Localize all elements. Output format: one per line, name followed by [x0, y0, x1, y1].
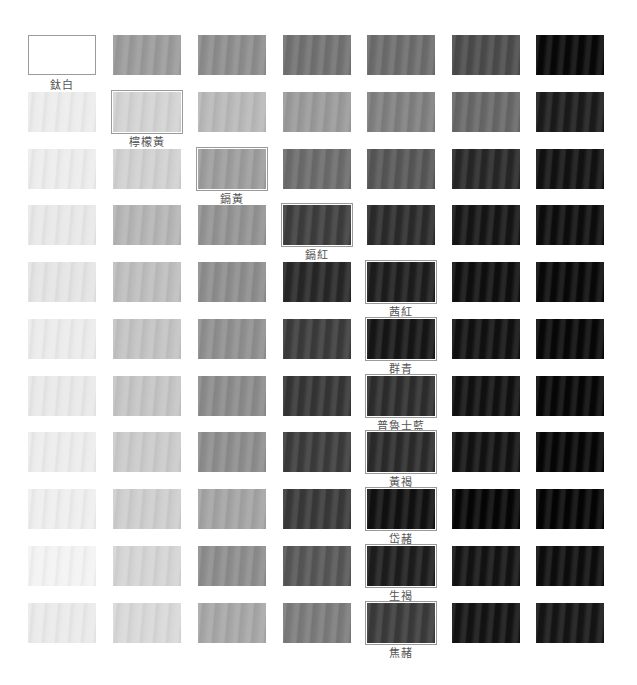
selected-color-swatch — [283, 205, 351, 245]
color-swatch — [283, 376, 351, 416]
selected-color-swatch — [367, 319, 435, 359]
color-swatch — [28, 149, 96, 189]
color-swatch — [113, 262, 181, 302]
color-swatch — [536, 35, 604, 75]
color-swatch — [113, 489, 181, 529]
color-swatch — [452, 376, 520, 416]
color-swatch — [283, 432, 351, 472]
selected-color-swatch — [367, 376, 435, 416]
color-swatch — [536, 489, 604, 529]
swatch-label: 岱赭 — [359, 533, 443, 546]
color-swatch — [283, 603, 351, 643]
color-swatch — [536, 376, 604, 416]
color-swatch — [452, 489, 520, 529]
color-swatch — [283, 92, 351, 132]
color-swatch — [198, 432, 266, 472]
color-swatch — [452, 603, 520, 643]
color-swatch — [198, 262, 266, 302]
color-swatch — [113, 149, 181, 189]
color-swatch — [28, 376, 96, 416]
color-swatch — [113, 432, 181, 472]
color-swatch — [28, 489, 96, 529]
color-swatch — [452, 546, 520, 586]
color-swatch — [198, 376, 266, 416]
color-swatch — [283, 35, 351, 75]
color-swatch — [536, 92, 604, 132]
color-swatch — [367, 35, 435, 75]
selected-color-swatch — [367, 262, 435, 302]
selected-color-swatch — [113, 92, 181, 132]
color-swatch — [28, 205, 96, 245]
color-swatch — [452, 205, 520, 245]
color-swatch — [198, 205, 266, 245]
color-swatch — [452, 432, 520, 472]
color-swatch — [536, 205, 604, 245]
color-swatch — [198, 92, 266, 132]
color-swatch — [198, 546, 266, 586]
swatch-label: 鎘紅 — [275, 249, 359, 262]
color-swatch — [536, 319, 604, 359]
swatch-label: 茜紅 — [359, 306, 443, 319]
color-swatch — [28, 92, 96, 132]
color-swatch — [283, 319, 351, 359]
color-swatch — [536, 432, 604, 472]
color-swatch — [198, 319, 266, 359]
color-swatch — [28, 432, 96, 472]
color-swatch — [113, 603, 181, 643]
grayscale-swatch-grid: 鈦白檸檬黃鎘黃鎘紅茜紅群青普魯士藍黃褐岱赭生褐焦赭 — [0, 0, 637, 685]
color-swatch — [198, 35, 266, 75]
color-swatch — [283, 546, 351, 586]
color-swatch — [113, 205, 181, 245]
color-swatch — [198, 603, 266, 643]
color-swatch — [536, 546, 604, 586]
color-swatch — [113, 319, 181, 359]
color-swatch — [113, 35, 181, 75]
selected-color-swatch — [367, 546, 435, 586]
color-swatch — [283, 262, 351, 302]
swatch-label: 鈦白 — [20, 79, 104, 92]
selected-color-swatch — [367, 432, 435, 472]
swatch-label: 黃褐 — [359, 476, 443, 489]
color-swatch — [198, 489, 266, 529]
selected-color-swatch — [367, 489, 435, 529]
swatch-label: 群青 — [359, 363, 443, 376]
swatch-label: 檸檬黃 — [105, 136, 189, 149]
color-swatch — [113, 376, 181, 416]
selected-color-swatch — [28, 35, 96, 75]
color-swatch — [367, 205, 435, 245]
color-swatch — [28, 603, 96, 643]
swatch-label: 生褐 — [359, 590, 443, 603]
color-swatch — [28, 319, 96, 359]
color-swatch — [28, 546, 96, 586]
color-swatch — [283, 149, 351, 189]
color-swatch — [452, 262, 520, 302]
color-swatch — [452, 319, 520, 359]
color-swatch — [367, 149, 435, 189]
color-swatch — [283, 489, 351, 529]
color-swatch — [536, 149, 604, 189]
color-swatch — [452, 149, 520, 189]
color-swatch — [28, 262, 96, 302]
color-swatch — [536, 603, 604, 643]
color-swatch — [536, 262, 604, 302]
swatch-label: 焦赭 — [359, 647, 443, 660]
color-swatch — [452, 92, 520, 132]
selected-color-swatch — [367, 603, 435, 643]
color-swatch — [113, 546, 181, 586]
color-swatch — [452, 35, 520, 75]
color-swatch — [367, 92, 435, 132]
selected-color-swatch — [198, 149, 266, 189]
